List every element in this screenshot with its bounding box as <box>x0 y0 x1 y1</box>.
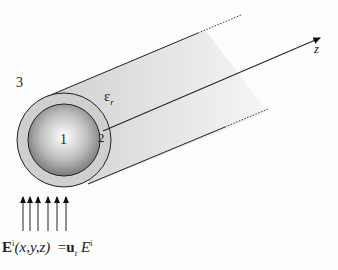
cylinder-diagram <box>0 0 338 270</box>
label-region-2: 2 <box>98 130 105 146</box>
incident-field-formula: Ei(x,y,z) =ut Ei <box>2 238 93 258</box>
label-region-1: 1 <box>60 132 67 148</box>
incident-field-arrows <box>23 197 66 231</box>
tube-top-dotted <box>198 15 241 33</box>
diagram-canvas: 3 1 2 εr z Ei(x,y,z) =ut Ei <box>0 0 338 270</box>
label-permittivity: εr <box>104 88 114 107</box>
label-region-3: 3 <box>16 75 23 91</box>
label-z-axis: z <box>314 41 319 57</box>
